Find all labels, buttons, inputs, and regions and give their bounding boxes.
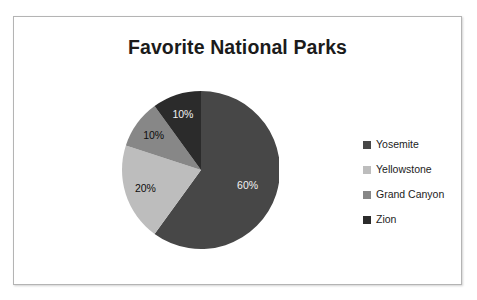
pie-chart-svg: 60%20%10%10%	[109, 78, 279, 264]
legend-swatch-icon	[363, 166, 371, 174]
legend-item-label: Yellowstone	[376, 164, 432, 175]
legend-item-label: Yosemite	[376, 139, 419, 150]
legend-item-label: Zion	[376, 214, 396, 225]
pie-chart: 60%20%10%10%	[109, 78, 279, 264]
chart-legend: YosemiteYellowstoneGrand CanyonZion	[363, 132, 475, 232]
legend-item-yellowstone[interactable]: Yellowstone	[363, 157, 475, 182]
legend-item-zion[interactable]: Zion	[363, 207, 475, 232]
legend-item-grand-canyon[interactable]: Grand Canyon	[363, 182, 475, 207]
pie-slice-group	[122, 91, 279, 249]
chart-title: Favorite National Parks	[14, 36, 461, 59]
pie-slice-label-grand-canyon: 10%	[143, 129, 164, 141]
legend-item-yosemite[interactable]: Yosemite	[363, 132, 475, 157]
legend-item-label: Grand Canyon	[376, 189, 444, 200]
pie-slice-label-yellowstone: 20%	[135, 182, 156, 194]
pie-slice-label-zion: 10%	[172, 108, 193, 120]
legend-swatch-icon	[363, 141, 371, 149]
legend-swatch-icon	[363, 191, 371, 199]
chart-frame: Favorite National Parks 60%20%10%10% Yos…	[13, 16, 462, 285]
legend-swatch-icon	[363, 216, 371, 224]
pie-slice-label-yosemite: 60%	[237, 179, 258, 191]
